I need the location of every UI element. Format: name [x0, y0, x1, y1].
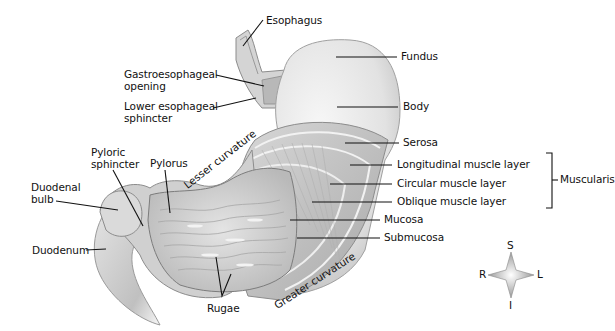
- compass-rose-icon: [488, 252, 534, 298]
- label-esophagus: Esophagus: [266, 14, 322, 26]
- label-pylorus: Pylorus: [150, 157, 188, 169]
- label-muscularis: Muscularis: [560, 173, 615, 185]
- label-lower-esophageal-sphincter: Lower esophageal sphincter: [124, 100, 219, 124]
- compass-left: L: [537, 268, 543, 280]
- compass-right: R: [479, 268, 486, 280]
- label-submucosa: Submucosa: [384, 231, 444, 243]
- compass-superior: S: [507, 239, 514, 251]
- label-circular-muscle-layer: Circular muscle layer: [397, 177, 506, 189]
- muscularis-bracket: [546, 153, 552, 208]
- compass-inferior: I: [509, 299, 512, 311]
- label-rugae: Rugae: [207, 302, 240, 314]
- label-longitudinal-muscle-layer: Longitudinal muscle layer: [397, 158, 530, 170]
- label-pyloric-sphincter: Pyloric sphincter: [91, 146, 151, 170]
- label-gastroesophageal-opening: Gastroesophageal opening: [124, 68, 219, 92]
- label-mucosa: Mucosa: [384, 213, 423, 225]
- leader-lower-esophageal-sphincter: [213, 98, 256, 108]
- label-serosa: Serosa: [403, 136, 438, 148]
- label-oblique-muscle-layer: Oblique muscle layer: [397, 195, 506, 207]
- label-fundus: Fundus: [401, 50, 438, 62]
- label-duodenal-bulb: Duodenal bulb: [31, 181, 86, 205]
- label-duodenum: Duodenum: [32, 244, 89, 256]
- label-body: Body: [403, 100, 429, 112]
- duodenal-bulb-shape: [100, 191, 142, 236]
